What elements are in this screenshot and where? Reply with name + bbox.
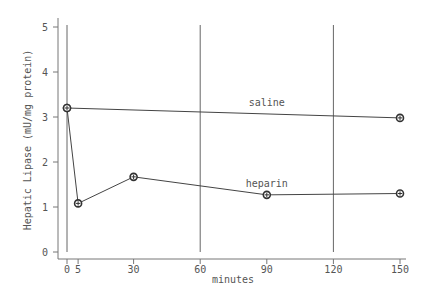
x-tick-label: 60 bbox=[194, 264, 206, 275]
series-label-heparin: heparin bbox=[246, 178, 288, 189]
axes: 01234505306090120150 bbox=[42, 18, 409, 275]
y-tick-label: 4 bbox=[42, 67, 48, 78]
series-label-saline: saline bbox=[249, 97, 285, 108]
x-tick-label: 30 bbox=[128, 264, 140, 275]
y-tick-label: 1 bbox=[42, 202, 48, 213]
y-axis-label: Hepatic Lipase (mU/mg protein) bbox=[22, 50, 33, 231]
y-tick-label: 5 bbox=[42, 22, 48, 33]
y-tick-label: 0 bbox=[42, 247, 48, 258]
x-tick-label: 150 bbox=[391, 264, 409, 275]
series-heparin: heparin bbox=[64, 105, 404, 207]
x-tick-label: 90 bbox=[261, 264, 273, 275]
data-series: salineheparin bbox=[64, 97, 404, 207]
x-tick-label: 120 bbox=[324, 264, 342, 275]
x-tick-label: 5 bbox=[75, 264, 81, 275]
hepatic-lipase-chart: 01234505306090120150 salineheparin minut… bbox=[0, 0, 424, 299]
vertical-reference-lines bbox=[67, 25, 333, 252]
series-line bbox=[67, 108, 400, 203]
y-tick-label: 3 bbox=[42, 112, 48, 123]
series-line bbox=[67, 108, 400, 118]
x-axis-label: minutes bbox=[212, 274, 254, 285]
y-tick-label: 2 bbox=[42, 157, 48, 168]
x-tick-label: 0 bbox=[64, 264, 70, 275]
series-saline: saline bbox=[64, 97, 404, 122]
